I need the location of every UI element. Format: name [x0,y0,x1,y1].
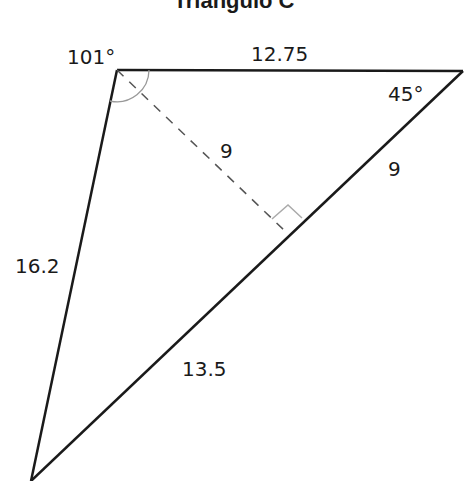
side-label-right-upper: 9 [388,157,401,181]
side-label-top: 12.75 [251,42,308,66]
triangle-diagram: 101° 12.75 45° 9 9 16.2 13.5 [0,0,468,481]
right-angle-marker [272,205,302,219]
angle-label-top-right: 45° [388,82,423,106]
side-top [117,70,463,71]
side-label-right-lower: 13.5 [182,357,227,381]
side-right [31,71,463,481]
angle-label-top-left: 101° [67,45,115,69]
altitude-dashed [117,70,286,232]
altitude-label: 9 [220,139,233,163]
side-label-left: 16.2 [15,254,60,278]
